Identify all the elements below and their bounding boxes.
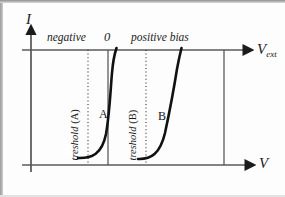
external-voltage-axis-label-subscript: ext [266, 49, 277, 59]
voltage-axis-label: V [259, 156, 268, 171]
threshold-b-label-word: treshold [127, 126, 138, 160]
external-voltage-axis-label: Vext [257, 42, 277, 57]
threshold-b-label-id: (B) [127, 110, 138, 127]
region-label-positive-bias: positive bias [131, 32, 189, 44]
threshold-a-label-word: treshold [69, 126, 80, 160]
threshold-a-label: treshold (A) [70, 109, 81, 160]
current-axis-label: I [26, 12, 31, 27]
threshold-b-label: treshold (B) [128, 110, 139, 161]
external-voltage-axis-label-main: V [257, 41, 266, 57]
curve-a [78, 48, 117, 158]
threshold-a-label-id: (A) [69, 109, 80, 126]
iv-characteristic-figure: I Vext V negative 0 positive bias tresho… [0, 0, 285, 197]
curve-b-letter: B [158, 110, 166, 122]
curve-a-letter: A [99, 108, 108, 120]
region-label-zero: 0 [104, 31, 110, 44]
plot-canvas [0, 0, 285, 197]
region-label-negative: negative [47, 32, 86, 44]
curve-b [138, 48, 182, 159]
